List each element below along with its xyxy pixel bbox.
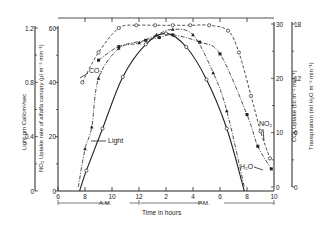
no2-marker — [237, 51, 240, 54]
no2-marker — [227, 29, 230, 32]
h2o-pointer — [254, 167, 263, 170]
no2-label: NO₂ — [259, 120, 273, 127]
x-tick-label: 6 — [56, 193, 60, 200]
light-marker — [205, 78, 208, 81]
h2o-marker — [270, 167, 273, 170]
light-marker — [185, 45, 188, 48]
light-tick-label: 1.2 — [25, 25, 34, 32]
no2-tick-label: 0 — [52, 188, 56, 195]
transpiration-tick-label: 18 — [294, 21, 302, 28]
light-marker — [101, 127, 104, 130]
pm-label: P.M. — [198, 200, 210, 206]
h2o-marker — [171, 33, 174, 36]
light-marker — [164, 32, 167, 35]
h2o-marker — [219, 52, 222, 55]
h2o-marker — [117, 45, 120, 48]
co2-axis-title: CO₂ Uptake (cc m⁻² min⁻¹) — [291, 70, 297, 142]
no2-tick-label: 40 — [49, 79, 57, 86]
co2-label: CO₂ — [89, 67, 103, 74]
no2-marker — [97, 51, 100, 54]
h2o-series-line — [99, 35, 272, 169]
no2-marker — [117, 26, 120, 29]
annotations: CO₂ Light NO₂ H₂O Time in hours A.M. P.M… — [21, 44, 314, 216]
am-label: A.M. — [99, 200, 112, 206]
no2-marker — [154, 24, 157, 27]
light-tick-label: 0.8 — [25, 79, 34, 86]
x-tick-label: 6 — [218, 193, 222, 200]
co2-tick-label: 30 — [276, 21, 284, 28]
co2-marker — [225, 109, 229, 112]
light-label: Light — [108, 137, 123, 145]
x-tick-label: 4 — [191, 193, 195, 200]
transpiration-tick-label: 0 — [294, 184, 298, 191]
x-tick-label: 8 — [245, 193, 249, 200]
no2-marker — [171, 24, 174, 27]
co2-marker — [155, 33, 159, 36]
x-axis-title: Time in hours — [142, 209, 182, 216]
light-marker — [121, 75, 124, 78]
no2-marker — [81, 81, 84, 84]
axes: 68101224681000.40.81.2020406001020300612… — [25, 18, 302, 205]
light-series-line — [80, 33, 245, 191]
x-tick-label: 8 — [83, 193, 87, 200]
co2-tick-label: 20 — [276, 75, 284, 82]
co2-tick-label: 0 — [276, 184, 280, 191]
no2-tick-label: 60 — [49, 25, 57, 32]
co2-marker — [83, 147, 87, 150]
h2o-marker — [256, 145, 259, 148]
co2-tick-label: 10 — [276, 129, 284, 136]
no2-marker — [189, 24, 192, 27]
h2o-marker — [144, 39, 147, 42]
no2-marker — [135, 24, 138, 27]
h2o-label: H₂O — [240, 163, 254, 170]
x-tick-label: 10 — [108, 193, 116, 200]
co2-marker — [90, 125, 94, 128]
light-tick-label: 0 — [30, 188, 34, 195]
light-marker — [144, 43, 147, 46]
h2o-marker — [97, 59, 100, 62]
light-marker — [85, 169, 88, 172]
co2-marker — [97, 76, 101, 79]
light-axis-title: Light gm Cal/cm²/sec — [21, 94, 27, 150]
h2o-marker — [158, 36, 161, 39]
x-tick-label: 2 — [164, 193, 168, 200]
no2-tick-label: 20 — [49, 133, 57, 140]
x-tick-label: 10 — [270, 193, 278, 200]
no2-marker — [208, 24, 211, 27]
h2o-marker — [198, 41, 201, 44]
h2o-marker — [246, 113, 249, 116]
no2-marker — [249, 94, 252, 97]
no2-axis-title: NO₂ Uptake rate of alfalfa canopy (µl m⁻… — [38, 44, 44, 172]
co2-pointer — [80, 73, 88, 78]
chart-svg: 68101224681000.40.81.2020406001020300612… — [0, 0, 321, 228]
co2-marker — [211, 71, 215, 74]
light-marker — [225, 127, 228, 130]
chart: 68101224681000.40.81.2020406001020300612… — [0, 0, 321, 228]
no2-marker — [259, 130, 262, 133]
no2-marker — [268, 157, 271, 160]
transpiration-axis-title: Transpiration (ml H₂O m⁻² min⁻¹) — [308, 62, 314, 150]
x-tick-label: 12 — [135, 193, 143, 200]
